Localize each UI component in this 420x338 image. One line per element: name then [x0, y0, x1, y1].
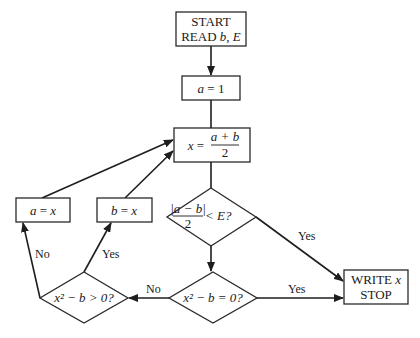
tolerance-rest: < E?: [205, 208, 232, 223]
arrow-tolerance-yes: [256, 217, 343, 281]
start-label: START: [191, 14, 230, 29]
midpoint-lhs: x =: [187, 138, 204, 153]
label-root-no: No: [146, 282, 161, 296]
midpoint-box: x = a + b 2: [174, 128, 250, 162]
midpoint-denominator: 2: [222, 145, 229, 160]
init-label: a = 1: [198, 81, 225, 96]
tolerance-denominator: 2: [185, 216, 192, 231]
flowchart: START READ b, E a = 1 x = a + b 2 |a − b…: [0, 0, 420, 338]
label-sign-yes: Yes: [102, 247, 120, 261]
label-tolerance-yes: Yes: [298, 229, 316, 243]
init-box: a = 1: [182, 76, 240, 100]
tolerance-decision: |a − b| 2 < E?: [167, 188, 256, 246]
root-decision-label: x² − b = 0?: [182, 290, 243, 305]
assign-b-label: b = x: [111, 203, 137, 218]
start-box: START READ b, E: [176, 12, 246, 46]
sign-decision: x² − b > 0?: [40, 272, 128, 323]
sign-decision-label: x² − b > 0?: [53, 290, 114, 305]
assign-a-box: a = x: [16, 198, 70, 222]
arrow-assign-a-to-midpoint: [42, 140, 173, 198]
label-sign-no: No: [35, 247, 50, 261]
assign-a-label: a = x: [30, 203, 56, 218]
read-label: READ b, E: [181, 29, 241, 44]
stop-label: STOP: [360, 287, 392, 302]
midpoint-numerator: a + b: [211, 129, 240, 144]
tolerance-numerator: |a − b|: [170, 201, 205, 216]
write-label: WRITE x: [351, 272, 401, 287]
root-decision: x² − b = 0?: [169, 272, 257, 323]
assign-b-box: b = x: [97, 198, 152, 222]
output-box: WRITE x STOP: [344, 270, 408, 304]
label-root-yes: Yes: [288, 282, 306, 296]
